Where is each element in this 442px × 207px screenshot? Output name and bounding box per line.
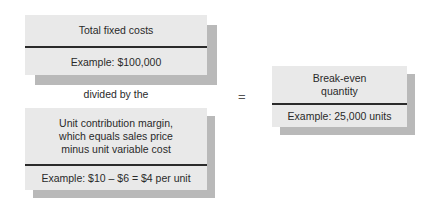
fixed-costs-title: Total fixed costs	[25, 15, 207, 46]
title-line: quantity	[313, 85, 367, 98]
title-line: Break-even	[313, 72, 367, 85]
equals-sign: =	[238, 89, 246, 104]
break-even-box: Break-even quantity Example: 25,000 unit…	[272, 66, 407, 127]
title-line: which equals sales price	[59, 130, 173, 143]
title-line: Unit contribution margin,	[59, 117, 173, 130]
contribution-margin-box: Unit contribution margin, which equals s…	[25, 108, 207, 190]
divided-by-label: divided by the	[25, 88, 207, 100]
title-line: minus unit variable cost	[59, 143, 173, 156]
fixed-costs-example: Example: $100,000	[25, 48, 207, 75]
break-even-title: Break-even quantity	[272, 66, 407, 103]
contribution-margin-example: Example: $10 – $6 = $4 per unit	[25, 166, 207, 190]
break-even-example: Example: 25,000 units	[272, 105, 407, 127]
fixed-costs-box: Total fixed costs Example: $100,000	[25, 15, 207, 75]
contribution-margin-title: Unit contribution margin, which equals s…	[25, 108, 207, 164]
